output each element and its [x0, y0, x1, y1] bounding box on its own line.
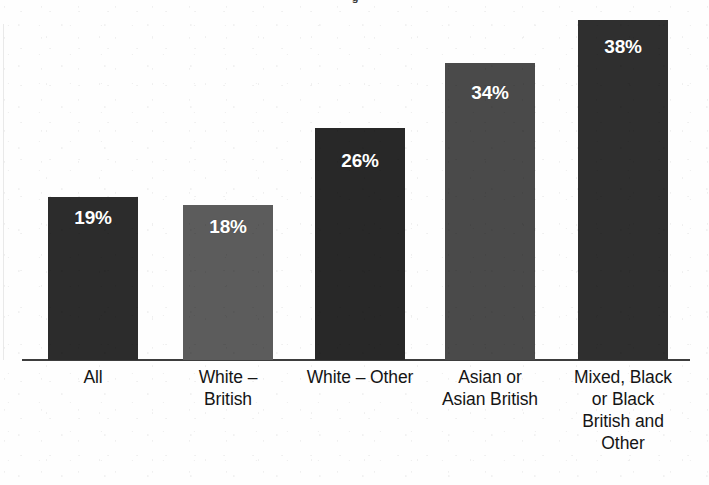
- bar-asian-or-asian-british-value-label: 34%: [445, 82, 535, 104]
- category-label-all: All: [28, 366, 158, 388]
- cut-off-title-remnant: g: [342, 0, 368, 3]
- bar-white-british-value-label: 18%: [183, 216, 273, 238]
- category-label-asian-or-asian-british: Asian or Asian British: [423, 366, 557, 410]
- bar-mixed-black-other[interactable]: 38%: [578, 20, 668, 360]
- bar-all-value-label: 19%: [48, 207, 138, 229]
- bar-white-british[interactable]: 18%: [183, 205, 273, 360]
- bar-asian-or-asian-british[interactable]: 34%: [445, 63, 535, 360]
- category-label-mixed-black-other: Mixed, Black or Black British and Other: [556, 366, 690, 454]
- bar-white-other-value-label: 26%: [315, 150, 405, 172]
- category-label-white-british: White – British: [163, 366, 293, 410]
- bar-mixed-black-other-value-label: 38%: [578, 36, 668, 58]
- category-label-white-other: White – Other: [291, 366, 429, 388]
- bar-white-other[interactable]: 26%: [315, 128, 405, 360]
- y-axis-line: [3, 24, 4, 360]
- bar-chart: g 19%18%26%34%38% AllWhite – BritishWhit…: [0, 0, 709, 485]
- bar-all[interactable]: 19%: [48, 197, 138, 360]
